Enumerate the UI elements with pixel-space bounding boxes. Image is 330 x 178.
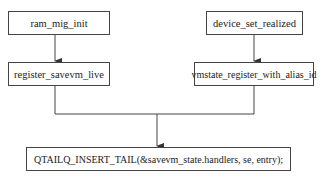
node-label: ram_mig_init: [30, 18, 87, 29]
node-label: register_savevm_live: [14, 69, 104, 80]
node-vmstate-register-with-alias-id: vmstate_register_with_alias_id: [194, 62, 314, 86]
node-device-set-realized: device_set_realized: [206, 11, 303, 35]
node-qtailq-insert-tail: QTAILQ_INSERT_TAIL(&savevm_state.handler…: [26, 147, 291, 171]
node-label: QTAILQ_INSERT_TAIL(&savevm_state.handler…: [34, 154, 283, 165]
node-ram-mig-init: ram_mig_init: [8, 11, 110, 35]
node-label: vmstate_register_with_alias_id: [192, 69, 317, 80]
node-register-savevm-live: register_savevm_live: [8, 62, 110, 86]
node-label: device_set_realized: [213, 18, 296, 29]
